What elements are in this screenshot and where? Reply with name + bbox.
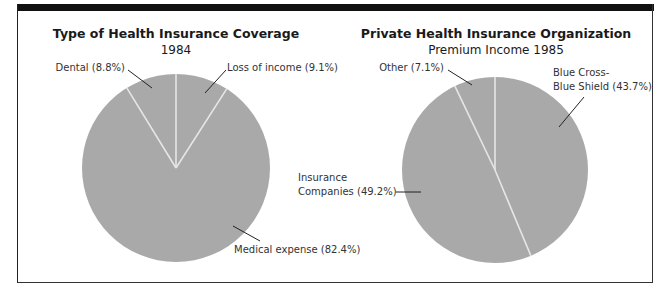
charts-canvas: Type of Health Insurance Coverage 1984 D…: [0, 0, 669, 295]
label-insurance-line1: Insurance: [298, 172, 347, 183]
left-chart-title: Type of Health Insurance Coverage: [53, 26, 299, 41]
label-medical-expense: Medical expense (82.4%): [234, 244, 360, 255]
label-dental: Dental (8.8%): [56, 62, 126, 73]
label-insurance-line2: Companies (49.2%): [298, 186, 397, 197]
left-pie-chart: Type of Health Insurance Coverage 1984 D…: [53, 26, 361, 262]
label-bcbs-line1: Blue Cross-: [553, 67, 610, 78]
right-chart-subtitle: Premium Income 1985: [428, 43, 564, 57]
left-chart-subtitle: 1984: [161, 43, 192, 57]
label-other: Other (7.1%): [379, 62, 444, 73]
left-pie-slices: [82, 74, 270, 262]
label-bcbs-line2: Blue Shield (43.7%): [553, 81, 652, 92]
right-chart-title: Private Health Insurance Organization: [361, 26, 631, 41]
label-loss-of-income: Loss of income (9.1%): [227, 62, 338, 73]
right-pie-chart: Private Health Insurance Organization Pr…: [298, 26, 652, 263]
other-leader-line: [448, 70, 472, 85]
right-pie-slices: [402, 77, 588, 263]
